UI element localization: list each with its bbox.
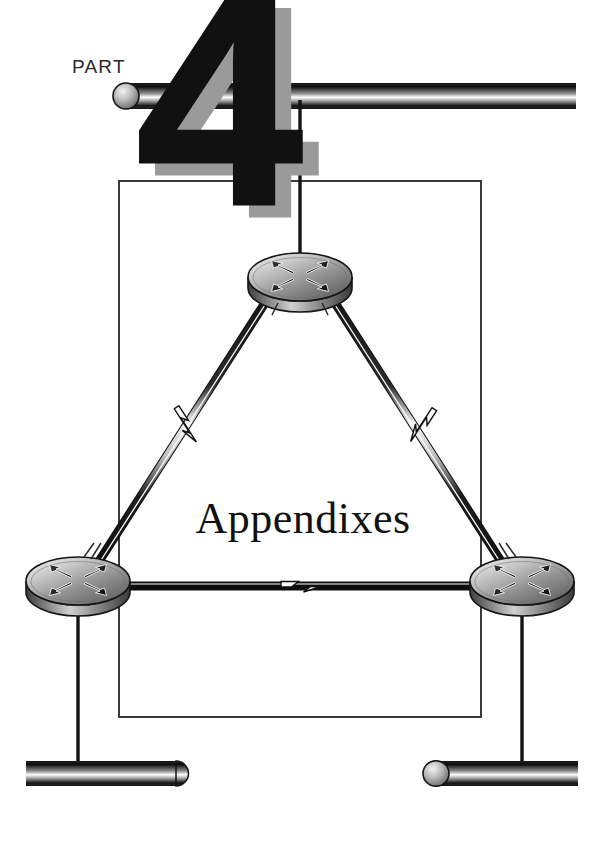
- link-bottom-left-to-bottom-right: [126, 582, 476, 593]
- part-divider-page: 4 4 PART Appendixes: [0, 0, 606, 847]
- router-bottom-left: [26, 543, 130, 616]
- ethernet-bus-bottom-left: [26, 761, 189, 786]
- part-number: 4: [136, 0, 295, 250]
- ethernet-bus-bottom-right: [423, 761, 578, 787]
- part-label: PART: [72, 57, 126, 76]
- router-bottom-right: [470, 543, 574, 616]
- page-title: Appendixes: [0, 497, 606, 541]
